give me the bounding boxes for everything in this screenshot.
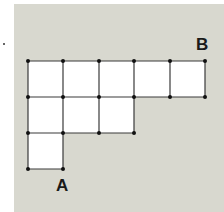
row-2-cells: [28, 97, 134, 133]
row-1-cells: [28, 61, 205, 97]
grid-diagram: [0, 0, 224, 212]
grid-cells: [28, 61, 205, 169]
point-b-label: B: [196, 36, 208, 53]
row-3-cells: [28, 133, 63, 169]
point-a-label: A: [56, 177, 68, 194]
